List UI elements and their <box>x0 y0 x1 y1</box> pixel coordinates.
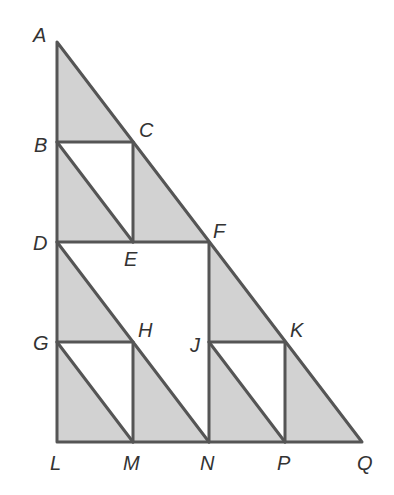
label-A: A <box>32 24 46 46</box>
edges <box>57 42 362 442</box>
label-J: J <box>189 334 201 356</box>
label-K: K <box>290 319 305 341</box>
geometry-diagram: A B C D E F G H J K L M N P Q <box>0 0 394 495</box>
label-Q: Q <box>357 452 373 474</box>
label-C: C <box>139 119 154 141</box>
label-L: L <box>50 452 61 474</box>
label-E: E <box>124 248 138 270</box>
label-H: H <box>138 319 153 341</box>
label-B: B <box>34 134 47 156</box>
triangle-figure: A B C D E F G H J K L M N P Q <box>0 0 394 495</box>
label-G: G <box>33 332 49 354</box>
label-F: F <box>213 220 227 242</box>
label-P: P <box>277 452 291 474</box>
label-N: N <box>200 452 215 474</box>
label-M: M <box>123 452 140 474</box>
label-D: D <box>33 232 47 254</box>
